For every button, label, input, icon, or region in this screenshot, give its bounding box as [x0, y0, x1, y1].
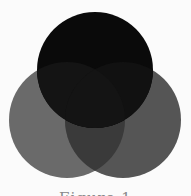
figure-caption: Figure 1: [0, 190, 191, 196]
venn-diagram: [0, 0, 191, 196]
